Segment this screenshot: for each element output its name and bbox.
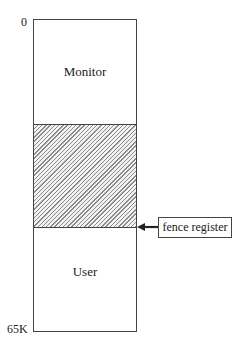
fence-register-label: fence register xyxy=(158,217,232,238)
address-start-label: 0 xyxy=(21,15,27,30)
hatched-fence-region xyxy=(34,124,136,228)
arrow-left-icon xyxy=(137,222,159,232)
user-label: User xyxy=(73,264,98,280)
address-end-label: 65K xyxy=(7,322,28,337)
memory-box: Monitor User xyxy=(33,19,137,332)
user-region: User xyxy=(34,228,136,331)
memory-layout-diagram: 0 65K Monitor User fence register xyxy=(0,0,243,349)
monitor-label: Monitor xyxy=(64,64,107,80)
monitor-region: Monitor xyxy=(34,20,136,124)
